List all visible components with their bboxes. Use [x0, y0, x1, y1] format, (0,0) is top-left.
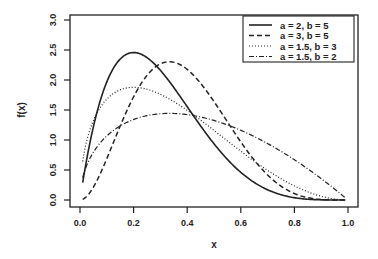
- legend: a = 2, b = 5a = 3, b = 5a = 1.5, b = 3a …: [243, 16, 354, 62]
- x-tick-label: 0.4: [181, 218, 194, 228]
- curve-dashed: [83, 62, 346, 200]
- legend-label: a = 2, b = 5: [280, 20, 329, 31]
- x-tick-label: 0.2: [127, 218, 140, 228]
- x-axis: 0.00.20.40.60.81.0: [74, 207, 355, 228]
- y-axis: 0.00.51.01.52.02.53.0: [48, 14, 70, 207]
- x-axis-label: x: [211, 239, 217, 250]
- y-tick-label: 1.5: [48, 104, 58, 117]
- curve-dotdash: [83, 113, 346, 197]
- legend-label: a = 1.5, b = 3: [280, 41, 337, 52]
- density-curves: [83, 53, 346, 200]
- y-tick-label: 2.5: [48, 44, 58, 57]
- y-tick-label: 2.0: [48, 74, 58, 87]
- y-tick-label: 3.0: [48, 14, 58, 27]
- legend-label: a = 3, b = 5: [280, 30, 329, 41]
- legend-label: a = 1.5, b = 2: [280, 51, 337, 62]
- curve-solid: [83, 53, 346, 200]
- y-tick-label: 1.0: [48, 134, 58, 147]
- beta-density-chart: 0.00.51.01.52.02.53.0 0.00.20.40.60.81.0…: [0, 0, 378, 259]
- y-tick-label: 0.0: [48, 194, 58, 207]
- x-tick-label: 0.6: [235, 218, 248, 228]
- x-tick-label: 0.0: [74, 218, 87, 228]
- y-axis-label: f(x): [16, 102, 27, 118]
- x-tick-label: 1.0: [342, 218, 355, 228]
- x-tick-label: 0.8: [288, 218, 301, 228]
- y-tick-label: 0.5: [48, 164, 58, 177]
